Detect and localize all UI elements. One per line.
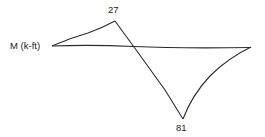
negative-moment-curve — [183, 47, 251, 119]
moment-diagram — [0, 0, 265, 137]
positive-moment-curve — [52, 21, 115, 46]
moment-axis-label: M (k-ft) — [10, 41, 40, 51]
baseline-axis — [52, 45, 251, 47]
positive-peak-value: 27 — [108, 5, 119, 15]
negative-peak-value: 81 — [176, 123, 187, 133]
negative-slope-line — [115, 21, 183, 119]
